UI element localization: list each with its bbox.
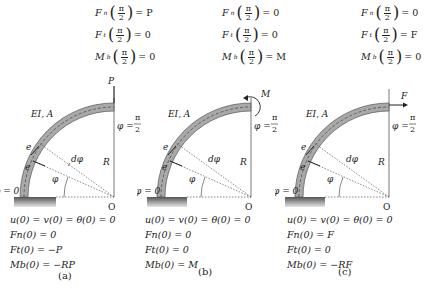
radial-line-2 <box>170 161 251 197</box>
radius-label: R <box>102 157 110 167</box>
et-label: e <box>301 142 306 152</box>
en-label: e <box>162 162 167 172</box>
et-label: e <box>26 142 31 152</box>
en-label: e <box>300 162 305 172</box>
caption-c: (c) <box>338 266 351 277</box>
bc-fn: Fn(0) = 0 <box>145 227 251 242</box>
radial-line-1 <box>176 143 251 197</box>
phi-start-label: φ = 0 <box>137 186 161 196</box>
load-label: P <box>107 76 115 86</box>
phi-end-num: π <box>410 113 415 122</box>
panel-b: Fn ( π2 ) = 0 Ft ( π2 ) = 0 Mb ( π2 ) = … <box>137 0 280 289</box>
moment-arrowhead-icon <box>243 95 248 101</box>
phi-end-label: φ = <box>392 121 409 131</box>
bc-displacement: u(0) = v(0) = θ(0) = 0 <box>145 212 251 227</box>
clamp-support <box>285 197 325 207</box>
phi-end-label: φ = <box>117 121 134 131</box>
phi-arc <box>201 177 205 197</box>
phi-start-label: φ = 0 <box>0 186 20 196</box>
base-boundary-conditions: u(0) = v(0) = θ(0) = 0 Fn(0) = 0 Ft(0) =… <box>10 212 116 272</box>
origin-label: O <box>383 202 390 212</box>
dphi-label: dφ <box>208 154 221 164</box>
phi-start-label: φ = 0 <box>275 186 299 196</box>
bc-displacement: u(0) = v(0) = θ(0) = 0 <box>287 212 393 227</box>
panel-c: Fn ( π2 ) = 0 Ft ( π2 ) = F Mb ( π2 ) = … <box>275 0 418 289</box>
force-arrowhead-icon <box>403 103 408 108</box>
load-label: F <box>400 91 408 101</box>
panel-a: Fn ( π2 ) = P Ft ( π2 ) = 0 Mb ( π2 ) = … <box>0 0 143 289</box>
property-label: EI, A <box>167 109 191 119</box>
radial-line-1 <box>314 143 389 197</box>
property-label: EI, A <box>30 109 54 119</box>
radial-line-2 <box>33 161 114 197</box>
en-label: e <box>25 162 30 172</box>
dphi-label: dφ <box>71 154 84 164</box>
radial-line-1 <box>39 143 114 197</box>
bc-fn: Fn(0) = F <box>287 227 393 242</box>
phi-label: φ <box>327 174 334 184</box>
caption-a: (a) <box>58 270 72 281</box>
property-label: EI, A <box>305 109 329 119</box>
bc-ft: Ft(0) = −P <box>10 242 116 257</box>
phi-label: φ <box>189 174 196 184</box>
base-boundary-conditions: u(0) = v(0) = θ(0) = 0 Fn(0) = F Ft(0) =… <box>287 212 393 272</box>
bc-ft: Ft(0) = 0 <box>145 242 251 257</box>
phi-arc <box>339 177 343 197</box>
bc-fn: Fn(0) = 0 <box>10 227 116 242</box>
radial-line-2 <box>308 161 389 197</box>
clamp-support <box>147 197 187 207</box>
radius-label: R <box>239 157 247 167</box>
phi-end-den: 2 <box>410 125 415 134</box>
et-label: e <box>163 142 168 152</box>
load-label: M <box>260 89 271 99</box>
origin-label: O <box>245 202 252 212</box>
phi-end-label: φ = <box>254 121 271 131</box>
origin-label: O <box>108 202 115 212</box>
radius-label: R <box>377 157 385 167</box>
phi-arc <box>64 177 68 197</box>
bc-displacement: u(0) = v(0) = θ(0) = 0 <box>10 212 116 227</box>
clamp-support <box>14 197 56 207</box>
caption-b: (b) <box>198 266 212 277</box>
dphi-label: dφ <box>346 154 359 164</box>
base-boundary-conditions: u(0) = v(0) = θ(0) = 0 Fn(0) = 0 Ft(0) =… <box>145 212 251 272</box>
phi-label: φ <box>52 174 59 184</box>
bc-ft: Ft(0) = 0 <box>287 242 393 257</box>
dphi-arc <box>68 163 70 166</box>
